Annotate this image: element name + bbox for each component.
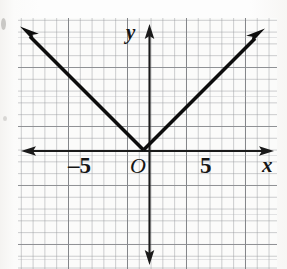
curve-right-branch — [144, 39, 256, 151]
y-axis-label: y — [126, 22, 135, 43]
x-tick-label-negative-5: –5 — [68, 154, 91, 177]
graph-figure: y x O –5 5 — [0, 0, 287, 269]
curve-left-arrowhead-icon — [20, 27, 39, 42]
curve-right-arrowhead-icon — [246, 29, 265, 44]
x-tick-label-positive-5: 5 — [200, 154, 212, 177]
absolute-value-curve — [0, 0, 287, 269]
curve-left-branch — [30, 37, 144, 151]
x-axis-label: x — [262, 155, 273, 176]
origin-label: O — [130, 155, 146, 177]
